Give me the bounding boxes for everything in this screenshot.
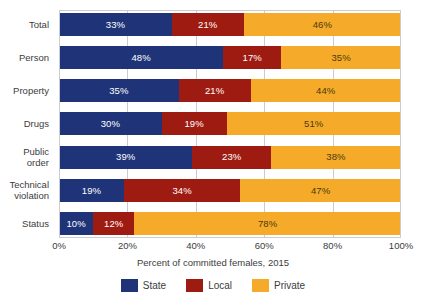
bar-segment-private: 47% <box>240 179 401 202</box>
chart-legend: StateLocalPrivate <box>0 279 426 292</box>
y-axis-label-total: Total <box>0 13 54 36</box>
bar-value-label: 21% <box>205 86 224 96</box>
bar-rows: 33%21%46%48%17%35%35%21%44%30%19%51%39%2… <box>59 10 401 238</box>
plot-area: 33%21%46%48%17%35%35%21%44%30%19%51%39%2… <box>59 10 401 238</box>
bar-value-label: 23% <box>222 152 241 162</box>
bar-segment-private: 51% <box>227 112 401 135</box>
legend-item-state[interactable]: State <box>121 279 166 292</box>
y-axis-label-line: Drugs <box>24 118 49 129</box>
bar-value-label: 48% <box>131 53 150 63</box>
bar-value-label: 38% <box>326 152 345 162</box>
x-tick-label-0: 0% <box>52 240 66 251</box>
bar-row: 33%21%46% <box>59 13 401 36</box>
legend-item-local[interactable]: Local <box>186 279 232 292</box>
bar-segment-local: 21% <box>172 13 244 36</box>
x-axis-tick-labels: 0%20%40%60%80%100% <box>59 240 401 254</box>
y-axis-label-person: Person <box>0 46 54 69</box>
stacked-bar-chart: TotalPersonPropertyDrugsPublicorderTechn… <box>0 0 426 306</box>
legend-label: State <box>143 280 166 291</box>
bar-segment-state: 39% <box>59 146 192 169</box>
bar-segment-state: 33% <box>59 13 172 36</box>
x-tick-label-20: 20% <box>118 240 137 251</box>
y-axis-label-line: Public <box>23 146 49 157</box>
x-tick-label-100: 100% <box>389 240 413 251</box>
legend-label: Private <box>274 280 305 291</box>
bar-value-label: 30% <box>101 119 120 129</box>
bar-segment-private: 44% <box>251 79 401 102</box>
bar-value-label: 12% <box>104 219 123 229</box>
bar-row: 35%21%44% <box>59 79 401 102</box>
bar-value-label: 51% <box>304 119 323 129</box>
y-axis-label-technical-violation: Technicalviolation <box>0 179 54 202</box>
legend-item-private[interactable]: Private <box>252 279 305 292</box>
bar-segment-local: 17% <box>223 46 281 69</box>
bar-segment-private: 38% <box>271 146 401 169</box>
legend-swatch-icon <box>121 279 138 292</box>
bar-value-label: 10% <box>66 219 85 229</box>
bar-segment-state: 10% <box>59 212 93 235</box>
x-tick-label-40: 40% <box>186 240 205 251</box>
bar-segment-local: 21% <box>179 79 251 102</box>
bar-row: 19%34%47% <box>59 179 401 202</box>
x-tick-label-80: 80% <box>323 240 342 251</box>
bar-row: 39%23%38% <box>59 146 401 169</box>
y-axis-label-property: Property <box>0 79 54 102</box>
bar-row: 10%12%78% <box>59 212 401 235</box>
y-axis-label-drugs: Drugs <box>0 112 54 135</box>
y-axis-label-public-order: Publicorder <box>0 146 54 169</box>
x-tick-label-60: 60% <box>255 240 274 251</box>
bar-value-label: 35% <box>109 86 128 96</box>
bar-segment-state: 35% <box>59 79 179 102</box>
bar-value-label: 46% <box>313 20 332 30</box>
bar-row: 30%19%51% <box>59 112 401 135</box>
bar-segment-local: 23% <box>192 146 271 169</box>
bar-segment-private: 78% <box>134 212 401 235</box>
bar-segment-local: 34% <box>124 179 240 202</box>
bar-value-label: 34% <box>172 186 191 196</box>
legend-swatch-icon <box>186 279 203 292</box>
x-axis-title: Percent of committed females, 2015 <box>0 257 426 268</box>
y-axis-label-line: order <box>27 157 49 168</box>
y-axis-label-line: Person <box>19 52 49 63</box>
bar-row: 48%17%35% <box>59 46 401 69</box>
y-axis-label-line: Total <box>29 19 49 30</box>
y-axis-label-status: Status <box>0 212 54 235</box>
bar-value-label: 21% <box>198 20 217 30</box>
bar-segment-private: 46% <box>244 13 401 36</box>
bar-value-label: 35% <box>331 53 350 63</box>
bar-segment-state: 19% <box>59 179 124 202</box>
y-axis-label-line: Property <box>13 85 49 96</box>
bar-value-label: 19% <box>184 119 203 129</box>
legend-label: Local <box>208 280 232 291</box>
bar-value-label: 78% <box>258 219 277 229</box>
bar-value-label: 39% <box>116 152 135 162</box>
y-axis-label-line: Technical <box>9 179 49 190</box>
bar-value-label: 47% <box>311 186 330 196</box>
y-axis-label-line: violation <box>14 190 49 201</box>
bar-value-label: 19% <box>82 186 101 196</box>
bar-segment-state: 30% <box>59 112 162 135</box>
legend-swatch-icon <box>252 279 269 292</box>
bar-value-label: 33% <box>106 20 125 30</box>
bar-value-label: 44% <box>316 86 335 96</box>
bar-value-label: 17% <box>243 53 262 63</box>
bar-segment-local: 12% <box>93 212 134 235</box>
y-axis-category-labels: TotalPersonPropertyDrugsPublicorderTechn… <box>0 10 54 238</box>
bar-segment-private: 35% <box>281 46 401 69</box>
y-axis-label-line: Status <box>22 218 49 229</box>
bar-segment-state: 48% <box>59 46 223 69</box>
bar-segment-local: 19% <box>162 112 227 135</box>
